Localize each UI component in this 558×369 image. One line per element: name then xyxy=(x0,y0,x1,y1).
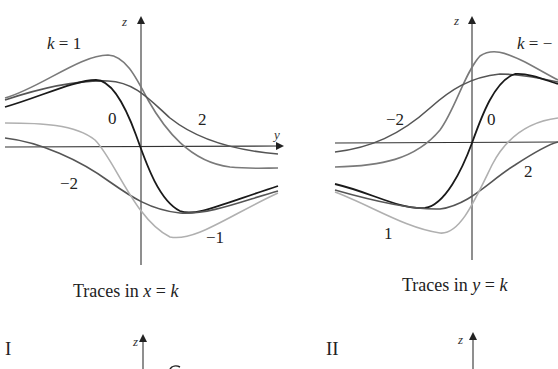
right-z-axis-label: z xyxy=(454,14,459,27)
left-panel-plot xyxy=(5,20,280,265)
right-curve-label-minus2: −2 xyxy=(386,111,404,128)
panel-label-II: II xyxy=(326,339,339,358)
panel-label-I: I xyxy=(5,339,11,358)
left-curve-label-2: 2 xyxy=(198,111,207,128)
right-curve-km2 xyxy=(335,74,558,152)
left-curve-label-0: 0 xyxy=(108,110,117,127)
right-curve-label-1: 1 xyxy=(384,225,393,242)
right-k-label: k = − xyxy=(517,35,552,52)
right-curve-km1-top xyxy=(335,52,558,167)
right-x-axis xyxy=(335,142,558,143)
bottom-right-z-axis-label: z xyxy=(458,333,463,346)
left-curve-label-minus1: −1 xyxy=(206,229,224,246)
right-caption: Traces in y = k xyxy=(402,276,508,294)
left-k-label: k = 1 xyxy=(47,35,81,52)
right-curve-label-2: 2 xyxy=(524,163,533,180)
left-y-axis xyxy=(5,146,280,147)
left-y-axis-label: y xyxy=(274,128,280,141)
left-curve-label-minus2: −2 xyxy=(60,175,78,192)
right-panel-plot xyxy=(335,20,558,260)
left-z-axis-label: z xyxy=(122,15,127,28)
traces-figure xyxy=(0,0,558,369)
bottom-left-z-axis-label: z xyxy=(133,335,138,348)
left-caption: Traces in x = k xyxy=(73,282,179,300)
right-curve-label-0: 0 xyxy=(487,111,496,128)
